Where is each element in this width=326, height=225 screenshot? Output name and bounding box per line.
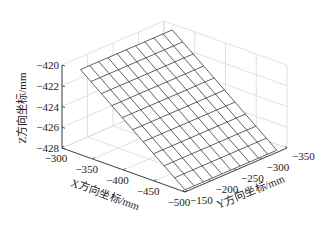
z-tick-mark	[62, 148, 65, 149]
z-tick-label: −420	[36, 59, 59, 71]
z-tick-label: −426	[36, 121, 59, 133]
z-tick-label: −422	[36, 80, 59, 92]
z-tick-label: −424	[36, 101, 59, 113]
y-tick-label: −150	[190, 194, 213, 206]
surface-plot: −428−426−424−422−420−300−350−400−450−500…	[0, 0, 326, 225]
x-tick-label: −300	[45, 152, 68, 164]
x-tick-label: −500	[168, 196, 191, 208]
z-axis-label: Z方向坐标/mm	[15, 72, 28, 143]
surface-mesh	[80, 30, 276, 190]
x-tick-label: −350	[75, 163, 98, 175]
x-tick-label: −450	[137, 185, 160, 197]
x-tick-label: −400	[106, 174, 129, 186]
y-tick-label: −300	[267, 161, 290, 173]
y-tick-label: −350	[292, 150, 315, 162]
